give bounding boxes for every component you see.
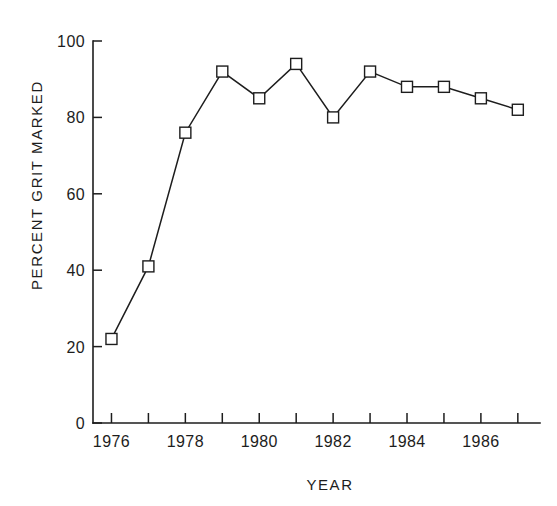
x-axis-title: YEAR (306, 476, 353, 493)
y-tick-label: 100 (57, 33, 85, 50)
x-tick-label: 1984 (388, 433, 425, 450)
y-tick-label: 60 (66, 186, 85, 203)
chart-container: PERCENT GRIT MARKED YEAR 020406080100 19… (0, 0, 557, 506)
y-axis-title: PERCENT GRIT MARKED (28, 80, 45, 290)
x-axis-ticks (111, 413, 517, 423)
data-point-marker (291, 58, 302, 69)
y-tick-label: 80 (66, 109, 85, 126)
x-tick-label: 1980 (241, 433, 278, 450)
line-chart: PERCENT GRIT MARKED YEAR 020406080100 19… (0, 0, 557, 506)
x-tick-label: 1982 (315, 433, 352, 450)
data-point-marker (328, 112, 339, 123)
y-tick-label: 40 (66, 262, 85, 279)
data-point-marker (365, 66, 376, 77)
data-point-marker (402, 81, 413, 92)
data-point-marker (180, 127, 191, 138)
y-axis-tick-labels: 020406080100 (57, 33, 85, 432)
data-point-marker (254, 93, 265, 104)
data-series-line (111, 64, 517, 339)
y-tick-label: 20 (66, 339, 85, 356)
x-tick-label: 1978 (167, 433, 204, 450)
data-point-marker (217, 66, 228, 77)
x-tick-label: 1986 (462, 433, 499, 450)
y-axis-ticks (93, 41, 102, 423)
data-point-marker (143, 261, 154, 272)
x-axis-tick-labels: 197619781980198219841986 (93, 433, 500, 450)
y-tick-label: 0 (76, 415, 85, 432)
x-tick-label: 1976 (93, 433, 130, 450)
data-point-marker (106, 333, 117, 344)
data-point-marker (475, 93, 486, 104)
data-point-marker (512, 104, 523, 115)
data-point-markers (106, 58, 523, 344)
data-point-marker (438, 81, 449, 92)
